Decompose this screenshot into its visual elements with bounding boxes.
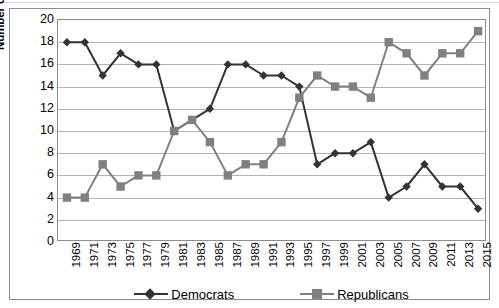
x-tick-label: 1989	[250, 242, 262, 282]
legend-swatch-republicans	[300, 288, 334, 300]
x-tick-label: 1985	[214, 242, 226, 282]
square-marker-icon	[152, 171, 160, 179]
x-tick-label: 2005	[393, 242, 405, 282]
page-top-rule	[0, 0, 499, 7]
x-tick-label: 1969	[71, 242, 83, 282]
y-tick-label: 10	[32, 124, 54, 137]
legend-entry-republicans: Republicans	[300, 288, 409, 301]
x-tick-label: 2007	[411, 242, 423, 282]
y-tick-label: 18	[32, 35, 54, 48]
square-marker-icon	[81, 193, 89, 201]
y-tick-label: 4	[32, 191, 54, 204]
y-tick-label: 16	[32, 57, 54, 70]
y-tick-label: 14	[32, 80, 54, 93]
square-marker-icon	[349, 82, 357, 90]
top-rule-line	[0, 2, 499, 3]
square-marker-icon	[474, 27, 482, 35]
series-plot-svg	[58, 20, 487, 242]
y-tick-label: 0	[32, 235, 54, 248]
legend-swatch-democrats	[134, 288, 168, 300]
series-republicans	[63, 27, 483, 202]
y-axis-title: Number of Southern Senate seats	[0, 0, 6, 50]
x-tick-label: 1979	[160, 242, 172, 282]
x-tick-label: 1975	[125, 242, 137, 282]
diamond-marker-icon	[145, 288, 156, 299]
y-tick-label: 20	[32, 13, 54, 26]
square-marker-icon	[116, 182, 124, 190]
legend-entry-democrats: Democrats	[134, 288, 234, 301]
x-tick-label: 1991	[268, 242, 280, 282]
x-tick-label: 1981	[178, 242, 190, 282]
square-marker-icon	[259, 160, 267, 168]
x-tick-label: 1987	[232, 242, 244, 282]
x-tick-label: 2013	[464, 242, 476, 282]
square-marker-icon	[313, 71, 321, 79]
diamond-marker-icon	[224, 60, 232, 68]
square-marker-icon	[402, 49, 410, 57]
square-marker-icon	[438, 49, 446, 57]
y-tick-label: 8	[32, 146, 54, 159]
square-marker-icon	[98, 160, 106, 168]
x-tick-label: 2003	[375, 242, 387, 282]
square-marker-icon	[456, 49, 464, 57]
series-line	[67, 42, 478, 209]
square-marker-icon	[312, 289, 322, 299]
chart-figure: Number of Southern Senate seats 20181614…	[0, 0, 499, 308]
y-tick-label: 12	[32, 102, 54, 115]
square-marker-icon	[206, 138, 214, 146]
legend-label-democrats: Democrats	[171, 288, 234, 301]
square-marker-icon	[63, 193, 71, 201]
square-marker-icon	[384, 38, 392, 46]
chart-legend: Democrats Republicans	[57, 285, 486, 303]
series-democrats	[63, 38, 483, 213]
square-marker-icon	[134, 171, 142, 179]
square-marker-icon	[331, 82, 339, 90]
square-marker-icon	[170, 127, 178, 135]
y-tick-label: 6	[32, 168, 54, 181]
x-tick-label: 2015	[482, 242, 494, 282]
x-tick-label: 1997	[321, 242, 333, 282]
diamond-marker-icon	[152, 60, 160, 68]
square-marker-icon	[367, 94, 375, 102]
diamond-marker-icon	[81, 38, 89, 46]
diamond-marker-icon	[63, 38, 71, 46]
x-tick-label: 2011	[446, 242, 458, 282]
square-marker-icon	[277, 138, 285, 146]
x-tick-label: 1973	[107, 242, 119, 282]
y-tick-label: 2	[32, 213, 54, 226]
square-marker-icon	[295, 94, 303, 102]
square-marker-icon	[224, 171, 232, 179]
x-tick-label: 1993	[285, 242, 297, 282]
square-marker-icon	[188, 116, 196, 124]
square-marker-icon	[241, 160, 249, 168]
x-tick-label: 2001	[357, 242, 369, 282]
x-tick-label: 1995	[303, 242, 315, 282]
series-line	[67, 31, 478, 198]
x-tick-label: 1977	[142, 242, 154, 282]
x-axis-tick-labels: 1969197119731975197719791981198319851987…	[57, 244, 486, 284]
x-tick-label: 2009	[428, 242, 440, 282]
square-marker-icon	[420, 71, 428, 79]
plot-area	[57, 19, 486, 241]
x-tick-label: 1983	[196, 242, 208, 282]
y-axis-tick-labels: 20181614121086420	[22, 19, 54, 241]
x-tick-label: 1971	[89, 242, 101, 282]
legend-label-republicans: Republicans	[337, 288, 409, 301]
x-tick-label: 1999	[339, 242, 351, 282]
